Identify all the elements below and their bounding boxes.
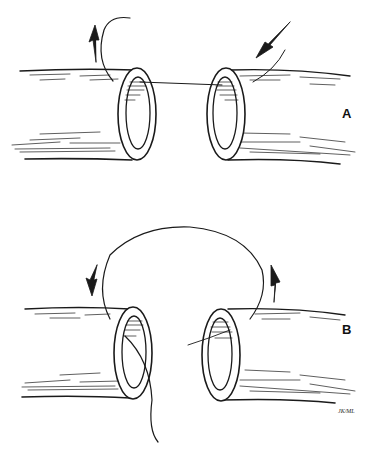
anastomosis-illustration: A B JK/ML: [0, 0, 373, 463]
left-vessel-b: [22, 307, 152, 399]
right-vessel-b: [202, 309, 355, 403]
panel-label-a: A: [342, 106, 352, 121]
left-vessel-a: [12, 68, 156, 160]
arrow-up-icon: [89, 25, 99, 62]
panel-b: [22, 227, 355, 442]
panel-a: [12, 18, 355, 165]
arrow-up-right-icon: [271, 265, 280, 302]
arrow-down-left-icon: [256, 22, 290, 58]
needle-path-left-a: [101, 18, 130, 82]
suture-loop-b: [103, 227, 264, 319]
right-vessel-a: [207, 68, 355, 164]
arrow-down-icon: [86, 265, 97, 296]
panel-label-b: B: [342, 322, 351, 337]
artist-signature: JK/ML: [338, 408, 355, 414]
